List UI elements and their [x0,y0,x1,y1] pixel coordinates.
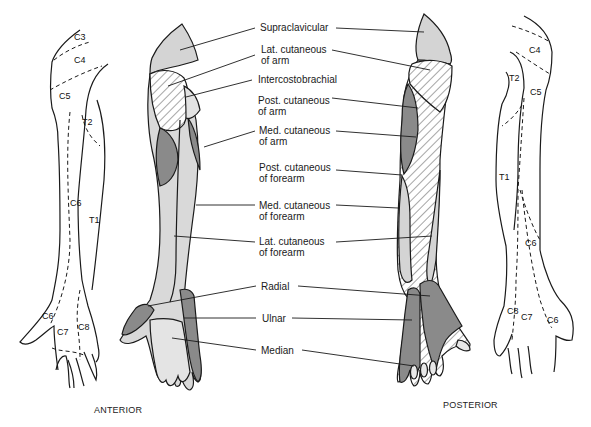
dermatome-c5-posterior: C5 [530,87,542,97]
label-text: Lat. cutaneous [261,44,327,55]
label-post-cutaneous-forearm: Post. cutaneousof forearm [259,162,331,184]
label-text: of forearm [259,211,305,222]
dermatome-c6-hand-anterior: C6 [42,311,54,321]
caption-posterior: POSTERIOR [443,400,498,410]
label-ulnar: Ulnar [262,313,286,324]
label-lat-cutaneous-arm: Lat. cutaneousof arm [261,44,327,66]
caption-anterior: ANTERIOR [94,405,142,415]
label-text: Med. cutaneous [259,200,330,211]
region-intercostobrachial [184,86,200,119]
label-supraclavicular: Supraclavicular [260,22,328,33]
label-text: of arm [261,55,289,66]
posterior-dermatome-arm [494,16,573,378]
region-median-fingertip-3 [430,361,437,375]
label-text: Ulnar [262,313,286,324]
dermatome-c8-posterior: C8 [507,306,519,316]
region-supraclavicular-anterior [150,24,198,74]
dermatome-t2-posterior: T2 [509,73,520,83]
region-supraclavicular-posterior [416,14,452,64]
dermatome-c3-anterior: C3 [74,32,86,42]
label-lat-cutaneous-forearm: Lat. cutaneousof forearm [259,236,325,258]
label-text: of forearm [259,173,305,184]
dermatome-c6-anterior: C6 [70,198,82,208]
label-text: Supraclavicular [260,22,328,33]
label-text: of arm [259,136,287,147]
label-text: Lat. cutaneous [259,236,325,247]
label-text: Med. cutaneous [259,125,330,136]
label-intercostobrachial: Intercostobrachial [258,74,337,85]
label-med-cutaneous-arm: Med. cutaneousof arm [259,125,330,147]
dermatome-c7-posterior: C7 [521,312,533,322]
dermatome-c4-posterior: C4 [529,45,541,55]
label-radial: Radial [261,281,289,292]
dermatome-c5-anterior: C5 [59,91,71,101]
dermatome-t1-anterior: T1 [89,215,100,225]
dermatome-t2-anterior: T2 [82,117,93,127]
dermatome-c6-posterior: C6 [525,238,537,248]
label-text: of arm [258,106,286,117]
dermatome-c7-anterior: C7 [57,327,69,337]
label-post-cutaneous-arm: Post. cutaneousof arm [258,95,330,117]
region-median-fingertip-1 [411,365,418,379]
label-text: Radial [261,281,289,292]
label-text: Post. cutaneous [258,95,330,106]
label-text: Intercostobrachial [258,74,337,85]
dermatome-t1-posterior: T1 [499,172,510,182]
region-median-fingertip-2 [421,363,428,377]
label-med-cutaneous-forearm: Med. cutaneousof forearm [259,200,330,222]
label-text: Median [261,345,294,356]
dermatome-c8-anterior: C8 [78,322,90,332]
posterior-cutaneous-arm [397,14,470,386]
dermatome-c6-hand-posterior: C6 [547,315,559,325]
label-text: Post. cutaneous [259,162,331,173]
dermatome-c4-anterior: C4 [74,55,86,65]
label-text: of forearm [259,247,305,258]
label-median: Median [261,345,294,356]
